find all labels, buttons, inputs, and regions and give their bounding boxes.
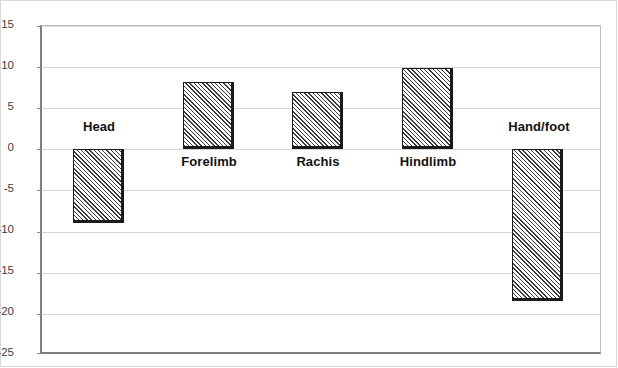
tick-0 [37, 149, 42, 150]
bar-label-hindlimb: Hindlimb [387, 154, 469, 169]
bar-head[interactable] [73, 149, 124, 223]
gridline-neg20 [42, 314, 600, 315]
bar-label-hand-foot: Hand/foot [494, 119, 584, 134]
y-axis-tick-label-neg5: -5 [0, 183, 14, 194]
bar-label-head: Head [58, 119, 140, 134]
tick-neg20 [37, 314, 42, 315]
tick-neg5 [37, 190, 42, 191]
bar-chart: 15 10 5 0 -5 -10 -15 -20 -25 Head [0, 0, 618, 368]
tick-neg25 [37, 353, 42, 354]
tick-15 [37, 26, 42, 27]
y-axis-tick-label-neg25: -25 [0, 347, 14, 358]
y-axis-tick-label-0: 0 [0, 142, 14, 153]
gridline-10 [42, 67, 600, 68]
bar-rachis[interactable] [292, 92, 343, 149]
gridline-15 [42, 26, 600, 27]
y-axis-tick-label-neg10: -10 [0, 224, 14, 235]
bar-hand-foot[interactable] [512, 149, 563, 301]
tick-neg10 [37, 232, 42, 233]
y-axis-tick-label-10: 10 [0, 60, 14, 71]
tick-neg15 [37, 273, 42, 274]
y-axis-tick-label-5: 5 [0, 101, 14, 112]
plot-area: Head Forelimb Rachis Hindlimb Hand/foot [40, 25, 601, 354]
bar-hindlimb[interactable] [402, 68, 453, 149]
bar-forelimb[interactable] [183, 82, 234, 149]
y-axis-tick-label-neg20: -20 [0, 306, 14, 317]
tick-5 [37, 108, 42, 109]
tick-10 [37, 67, 42, 68]
y-axis-tick-label-15: 15 [0, 19, 14, 30]
bar-label-forelimb: Forelimb [168, 154, 250, 169]
bar-label-rachis: Rachis [277, 154, 359, 169]
y-axis-tick-label-neg15: -15 [0, 265, 14, 276]
